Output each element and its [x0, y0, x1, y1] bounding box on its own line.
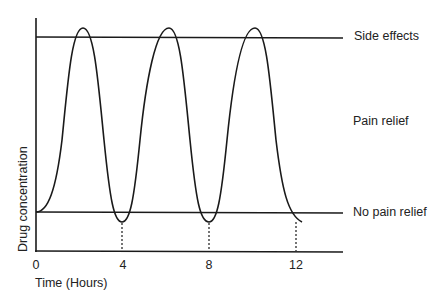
- pain-relief-label: Pain relief: [353, 114, 409, 128]
- x-axis-label: Time (Hours): [35, 276, 107, 290]
- no-pain-relief-label: No pain relief: [353, 205, 427, 219]
- side-effects-threshold-line: [36, 37, 343, 38]
- x-tick-4: 4: [120, 258, 127, 272]
- x-tick-12: 12: [289, 258, 303, 272]
- x-axis: [35, 251, 343, 252]
- x-tick-0: 0: [33, 258, 40, 272]
- x-tick-8: 8: [206, 258, 213, 272]
- concentration-curve: [36, 28, 302, 222]
- side-effects-label: Side effects: [354, 29, 419, 43]
- y-axis-label: Drug concentration: [16, 146, 30, 252]
- no-pain-relief-threshold-line: [36, 212, 343, 213]
- drug-concentration-chart: [0, 0, 446, 308]
